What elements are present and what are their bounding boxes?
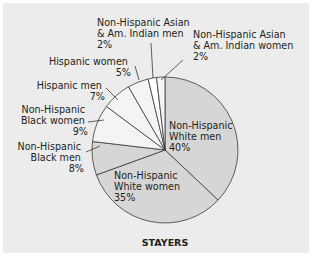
label-asian-women: Non-Hispanic Asian & Am. Indian women 2% — [193, 29, 296, 62]
chart-title: STAYERS — [142, 237, 189, 248]
label-hispanic-men: Hispanic men 7% — [37, 80, 105, 102]
label-black-men: Non-Hispanic Black men 8% — [17, 141, 84, 174]
label-asian-men: Non-Hispanic Asian & Am. Indian men 2% — [97, 17, 193, 50]
leader-hispanic-men — [106, 88, 118, 100]
leader-asian-men — [151, 43, 153, 78]
leader-hispanic-women — [135, 66, 139, 80]
label-black-women: Non-Hispanic Black women 9% — [21, 104, 88, 137]
label-hispanic-women: Hispanic women 5% — [49, 56, 131, 78]
pie-chart: Non-Hispanic Asian & Am. Indian men 2% N… — [0, 0, 316, 259]
